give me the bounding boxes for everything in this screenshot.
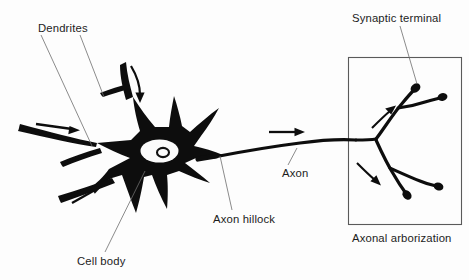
axon-hillock-label: Axon hillock xyxy=(213,213,275,225)
axon-fiber xyxy=(214,140,356,157)
arborization-trunk xyxy=(356,139,376,140)
arborization-arrow-lower xyxy=(357,163,375,180)
neuron-diagram-canvas: Dendrites Cell body Axon hillock Axon Sy… xyxy=(0,0,469,280)
nucleus xyxy=(141,140,179,163)
dendrite-arrow-left-head xyxy=(68,126,80,134)
dendrites-leader-2 xyxy=(80,35,104,97)
axon-leader xyxy=(288,148,297,165)
dendrite-arrow-upper-curved-head xyxy=(135,93,144,104)
synaptic-terminal-leader xyxy=(400,26,417,84)
synaptic-terminal-bulb-2 xyxy=(437,92,449,102)
synaptic-terminal-label: Synaptic terminal xyxy=(352,12,441,24)
dendrite-arrow-upper-curved xyxy=(131,66,140,95)
dendrite-lower-left-fork xyxy=(60,148,102,167)
axon-hillock-leader xyxy=(220,156,232,210)
axon-label: Axon xyxy=(282,167,308,179)
dendrite-arrow-left xyxy=(36,124,72,129)
arborization-branch-upper xyxy=(376,91,413,139)
cell-body-label: Cell body xyxy=(77,255,126,267)
dendrites-label: Dendrites xyxy=(38,22,88,34)
dendrite-lower-left-long xyxy=(58,178,115,203)
axon-arrow-head xyxy=(295,128,306,136)
axon-hillock-taper xyxy=(198,156,216,159)
synaptic-terminal-bulb-3 xyxy=(432,181,444,192)
axonal-arborization-label: Axonal arborization xyxy=(352,232,452,244)
neuron-diagram: Dendrites Cell body Axon hillock Axon Sy… xyxy=(0,0,469,280)
